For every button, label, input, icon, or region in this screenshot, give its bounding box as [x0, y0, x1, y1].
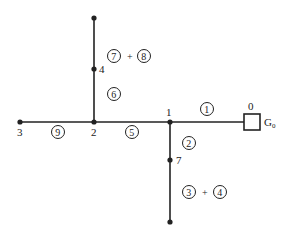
svg-text:8: 8 [141, 51, 146, 62]
node-4 [91, 66, 96, 71]
circled-2: 2 [183, 137, 196, 150]
circled-8: 8 [138, 50, 151, 63]
node-label-1: 1 [166, 106, 172, 118]
node-label-7: 7 [176, 154, 182, 166]
network-diagram: 0 1 2 3 4 7 G0 1 5 9 6 7 + 8 2 3 + 4 [0, 0, 293, 239]
svg-text:2: 2 [186, 138, 191, 149]
node-3 [17, 119, 22, 124]
node-label-3: 3 [17, 126, 23, 138]
node-2 [91, 119, 96, 124]
node-label-4: 4 [99, 63, 105, 75]
circled-1: 1 [201, 103, 214, 116]
svg-text:7: 7 [111, 51, 116, 62]
source-label: G0 [264, 116, 276, 130]
plus-sign-bottom: + [202, 187, 208, 198]
circled-4: 4 [214, 186, 227, 199]
circled-6: 6 [108, 88, 121, 101]
node-7 [167, 157, 172, 162]
source-node-0 [244, 114, 260, 130]
svg-text:6: 6 [111, 89, 116, 100]
node-label-0: 0 [248, 100, 254, 112]
node-label-2: 2 [91, 126, 97, 138]
svg-text:9: 9 [55, 127, 60, 138]
circled-9: 9 [52, 126, 65, 139]
svg-text:4: 4 [217, 187, 222, 198]
circled-5: 5 [126, 126, 139, 139]
plus-sign-top: + [127, 51, 133, 62]
svg-text:5: 5 [129, 127, 134, 138]
node-bottom [167, 219, 172, 224]
circled-3: 3 [183, 186, 196, 199]
svg-text:1: 1 [204, 104, 209, 115]
svg-text:3: 3 [186, 187, 191, 198]
circled-7: 7 [108, 50, 121, 63]
node-top [91, 15, 96, 20]
node-1 [167, 119, 172, 124]
